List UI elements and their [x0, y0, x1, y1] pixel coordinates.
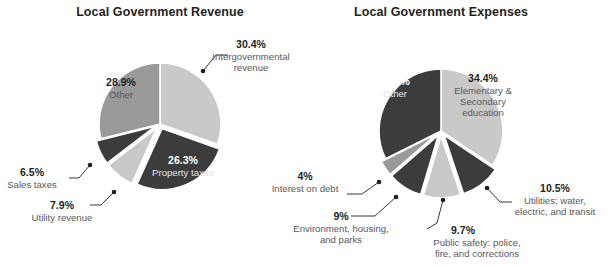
figure-canvas: Local Government Revenue 30.4% Intergove… — [0, 0, 613, 265]
slice-value-other-expenses: 32.4% — [380, 75, 410, 87]
slice-label-line2-intergovernmental-revenue: revenue — [234, 62, 269, 73]
leader-line-sales-taxes — [69, 165, 90, 178]
slice-label-environment-housing-parks: 9% Environment, housing, and parks — [293, 195, 398, 245]
slice-label-utilities: 10.5% Utilities: water, electric, and tr… — [485, 182, 596, 217]
slice-value-property-taxes: 26.3% — [168, 154, 198, 166]
slice-label-line1-intergovernmental-revenue: Intergovernmental — [212, 51, 289, 62]
slice-label-utility-revenue: 7.9% Utility revenue — [32, 190, 117, 223]
chart-expenses: Local Government Expenses 34.4% Elementa… — [272, 5, 596, 259]
slice-label-line1-elementary-secondary-education: Elementary & — [454, 85, 512, 96]
slice-label-line1-public-safety: Public safety: police, — [433, 237, 520, 248]
slice-value-public-safety: 9.7% — [451, 224, 476, 236]
slice-label-line2-environment-housing-parks: and parks — [320, 234, 362, 245]
slice-label-utility-revenue-text: Utility revenue — [32, 212, 93, 223]
leader-line-utility-revenue — [90, 192, 114, 205]
leader-line-environment-housing-parks — [351, 197, 396, 216]
chart-revenue-title: Local Government Revenue — [76, 5, 244, 19]
slice-value-environment-housing-parks: 9% — [333, 210, 349, 222]
slice-label-line2-utilities: electric, and transit — [515, 206, 596, 217]
leader-line-public-safety — [427, 200, 443, 229]
leader-line-utilities — [487, 188, 512, 202]
slice-label-public-safety: 9.7% Public safety: police, fire, and co… — [427, 198, 521, 259]
slice-label-interest-on-debt: 4% Interest on debt — [272, 170, 382, 194]
slice-value-intergovernmental-revenue: 30.4% — [236, 38, 266, 50]
slice-value-utility-revenue: 7.9% — [50, 199, 75, 211]
slice-label-line1-utilities: Utilities: water, — [524, 195, 586, 206]
slice-value-other-revenue: 28.9% — [106, 76, 136, 88]
slice-value-utilities: 10.5% — [540, 182, 570, 194]
slice-label-line2-public-safety: fire, and corrections — [435, 248, 519, 259]
slice-value-interest-on-debt: 4% — [297, 170, 313, 182]
slice-label-sales-taxes-text: Sales taxes — [7, 179, 57, 190]
dual-pie-chart-figure: Local Government Revenue 30.4% Intergove… — [0, 0, 613, 265]
slice-label-interest-on-debt-text: Interest on debt — [272, 183, 339, 194]
chart-expenses-title: Local Government Expenses — [354, 5, 528, 19]
slice-label-other-revenue-text: Other — [109, 89, 134, 100]
slice-label-line3-elementary-secondary-education: education — [462, 107, 504, 118]
slice-label-other-expenses-text: Other — [383, 88, 408, 99]
slice-value-elementary-secondary-education: 34.4% — [468, 72, 498, 84]
slice-label-intergovernmental-revenue: 30.4% Intergovernmental revenue — [201, 38, 290, 73]
leader-line-interest-on-debt — [347, 182, 379, 194]
chart-revenue: Local Government Revenue 30.4% Intergove… — [7, 5, 289, 223]
slice-label-line2-elementary-secondary-education: Secondary — [460, 96, 506, 107]
slice-value-sales-taxes: 6.5% — [20, 166, 45, 178]
slice-label-sales-taxes: 6.5% Sales taxes — [7, 163, 92, 190]
slice-label-line1-environment-housing-parks: Environment, housing, — [293, 223, 388, 234]
slice-label-property-taxes-text: Property taxes — [152, 167, 214, 178]
